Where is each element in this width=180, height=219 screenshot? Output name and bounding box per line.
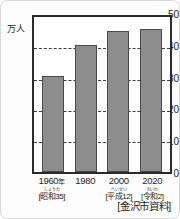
bar-slot-2020 bbox=[140, 17, 162, 172]
bar-2020[interactable] bbox=[140, 29, 162, 172]
x-axis-era-1960: [昭和35] bbox=[35, 192, 69, 201]
x-axis-year-value-2020: 2020 bbox=[142, 175, 162, 186]
x-axis-year-1980: 1980 bbox=[69, 176, 103, 187]
bar-slot-2000 bbox=[107, 17, 129, 172]
x-axis-label-1980: 1980 bbox=[69, 176, 103, 204]
x-axis-era-wrap-1960: しょうわ [昭和35] bbox=[35, 188, 69, 201]
y-axis-unit-label: 万人 bbox=[7, 22, 24, 35]
plot-area bbox=[32, 15, 172, 174]
bar-slot-1960 bbox=[42, 17, 64, 172]
x-axis-year-value-1960: 1960 bbox=[38, 175, 58, 186]
source-caption: [金沢市資料] bbox=[117, 198, 171, 213]
x-axis-year-1960: 1960年 bbox=[35, 176, 69, 187]
x-axis-year-suffix-1960: 年 bbox=[58, 178, 65, 185]
bar-slot-1980 bbox=[75, 17, 97, 172]
x-axis-year-2000: 2000 bbox=[102, 176, 136, 187]
bar-2000[interactable] bbox=[107, 31, 129, 172]
bar-1960[interactable] bbox=[42, 76, 64, 172]
population-bar-chart-figure: 万人 50 40 30 20 10 0 19 bbox=[0, 0, 180, 219]
bar-group bbox=[34, 17, 170, 172]
x-axis-label-1960: 1960年 しょうわ [昭和35] bbox=[35, 176, 69, 204]
x-axis-year-value-2000: 2000 bbox=[109, 175, 129, 186]
x-axis-year-2020: 2020 bbox=[136, 176, 170, 187]
x-axis-year-value-1980: 1980 bbox=[75, 175, 95, 186]
bar-1980[interactable] bbox=[75, 45, 97, 172]
